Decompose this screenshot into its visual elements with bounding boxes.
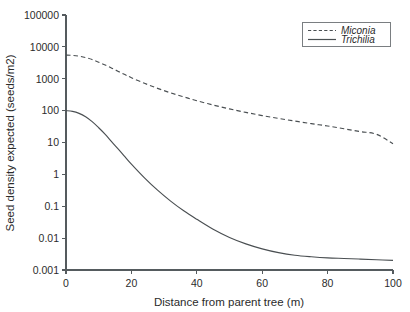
plot-axes xyxy=(66,15,393,270)
y-tick-label: 1 xyxy=(53,168,59,180)
y-tick-label: 1000 xyxy=(36,73,60,85)
x-axis-ticks: 020406080100 xyxy=(63,270,402,289)
series-line-miconia xyxy=(66,55,393,143)
legend-label-trichilia: Trichilia xyxy=(341,34,375,45)
x-tick-label: 0 xyxy=(63,277,69,289)
y-tick-label: 10000 xyxy=(30,41,59,53)
x-tick-label: 20 xyxy=(126,277,138,289)
y-tick-label: 100 xyxy=(41,104,59,116)
y-axis-title: Seed density expected (seeds/m2) xyxy=(4,54,16,231)
x-tick-label: 40 xyxy=(191,277,203,289)
y-tick-label: 0.1 xyxy=(44,200,59,212)
x-axis-title: Distance from parent tree (m) xyxy=(154,296,304,308)
seed-density-line-chart: 0.0010.010.1110100100010000100000 020406… xyxy=(0,0,410,312)
x-tick-label: 80 xyxy=(322,277,334,289)
y-tick-label: 0.01 xyxy=(39,232,60,244)
x-tick-label: 100 xyxy=(384,277,402,289)
y-tick-label: 0.001 xyxy=(33,264,59,276)
x-tick-label: 60 xyxy=(256,277,268,289)
series-line-trichilia xyxy=(66,111,393,261)
y-tick-label: 100000 xyxy=(24,9,59,21)
chart-legend: Miconia Trichilia xyxy=(303,23,391,47)
y-tick-label: 10 xyxy=(47,136,59,148)
chart-figure: 0.0010.010.1110100100010000100000 020406… xyxy=(0,0,410,312)
data-series-group xyxy=(66,55,393,260)
y-axis-ticks: 0.0010.010.1110100100010000100000 xyxy=(24,9,66,276)
